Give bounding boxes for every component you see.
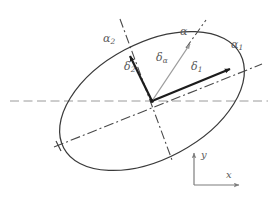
label-delta-1: δ1 — [191, 61, 202, 74]
major-axis-dashdot-line — [54, 64, 262, 147]
delta-1-vector — [152, 69, 230, 101]
label-axis-x: x — [226, 170, 232, 180]
alpha-direction-dashdot-ray — [186, 20, 206, 48]
ellipse-diagram-figure: α2 δ2 α δα δ1 α1 y x — [0, 0, 272, 202]
ellipse-center-point — [150, 99, 154, 103]
label-delta-alpha: δα — [156, 52, 168, 65]
label-delta-2: δ2 — [124, 61, 135, 74]
label-alpha-2: α2 — [103, 33, 115, 46]
label-alpha-1: α1 — [231, 39, 243, 52]
label-alpha: α — [180, 26, 187, 37]
label-axis-y: y — [201, 150, 207, 160]
